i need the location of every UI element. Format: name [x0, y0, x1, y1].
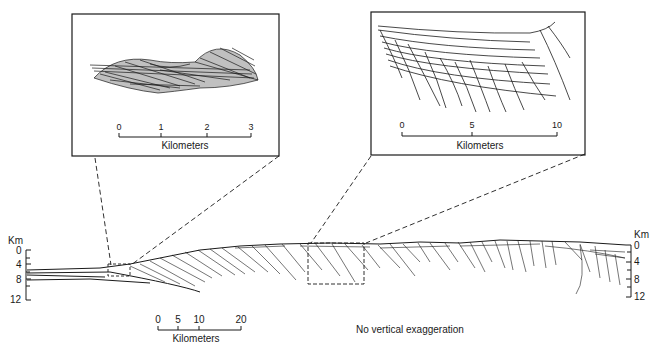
- vertical-exaggeration-note: No vertical exaggeration: [356, 324, 464, 335]
- left-inset-scale-bar: [119, 133, 251, 137]
- right-axis-unit: Km: [634, 229, 649, 240]
- left-inset-tick-2: 2: [204, 122, 209, 132]
- left-axis-tick-8: 8: [16, 274, 22, 285]
- right-inset-tick-10: 10: [552, 120, 562, 130]
- left-inset-tick-3: 3: [248, 122, 253, 132]
- main-cross-section: Km 0 4 8 12 Km 0 4 8 12: [8, 229, 649, 344]
- main-scale-tick-5: 5: [175, 314, 181, 325]
- left-axis-tick-12: 12: [10, 294, 22, 305]
- right-axis-tick-12: 12: [634, 291, 646, 302]
- right-axis-tick-8: 8: [634, 274, 640, 285]
- main-scale-unit: Kilometers: [172, 333, 219, 344]
- main-scale-tick-0: 0: [155, 314, 161, 325]
- right-depth-axis: [626, 245, 631, 297]
- right-inset-tick-5: 5: [469, 120, 474, 130]
- cross-section-diagram: 0 1 2 3 Kilometers: [0, 0, 661, 350]
- left-inset-sediment-body: [90, 48, 258, 93]
- left-axis-tick-0: 0: [16, 245, 22, 256]
- left-inset: 0 1 2 3 Kilometers: [72, 14, 279, 156]
- main-scale-tick-10: 10: [193, 314, 205, 325]
- right-inset-faulted-layers: [378, 22, 570, 112]
- right-axis-tick-4: 4: [634, 256, 640, 267]
- fault-hatching: [130, 241, 625, 294]
- main-scale-tick-20: 20: [235, 314, 247, 325]
- left-inset-scale-unit: Kilometers: [161, 140, 208, 151]
- zoom-connector-lines: [95, 154, 585, 265]
- left-axis-tick-4: 4: [16, 259, 22, 270]
- right-axis-tick-0: 0: [634, 240, 640, 251]
- left-inset-tick-1: 1: [158, 122, 163, 132]
- right-inset-scale-bar: [402, 132, 557, 136]
- left-inset-tick-0: 0: [116, 122, 121, 132]
- main-scale-bar: [158, 326, 241, 330]
- right-inset: 0 5 10 Kilometers: [371, 12, 585, 155]
- right-inset-scale-unit: Kilometers: [456, 140, 503, 151]
- right-inset-tick-0: 0: [399, 120, 404, 130]
